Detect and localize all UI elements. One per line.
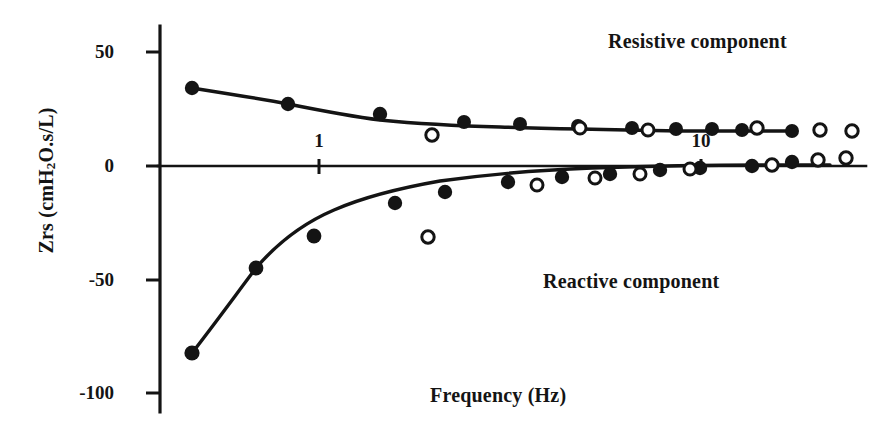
resistive-curve (192, 88, 792, 131)
data-point-open (684, 163, 696, 175)
data-point-filled (501, 175, 515, 189)
data-point-open (634, 168, 646, 180)
y-axis-label: Zrs (cmH2O.s/L) (35, 55, 60, 305)
data-point-open (766, 159, 778, 171)
data-point-filled (745, 159, 759, 173)
data-point-filled (388, 196, 402, 210)
data-point-open (426, 129, 438, 141)
data-point-filled (625, 121, 639, 135)
x-tick-label-1: 1 (299, 130, 339, 152)
chart-figure: 50 0 -50 -100 1 10 Zrs (cmH2O.s/L) Frequ… (0, 0, 880, 436)
data-point-open (574, 122, 586, 134)
chart-canvas (0, 0, 880, 436)
data-point-filled (457, 115, 471, 129)
data-point-open (846, 125, 858, 137)
reactive-filled-markers (184, 155, 799, 361)
y-axis-label-head: Zrs (cmH (35, 169, 57, 253)
data-point-filled (438, 185, 452, 199)
data-point-open (751, 122, 763, 134)
x-tick-label-10: 10 (676, 130, 726, 152)
data-point-filled (281, 97, 295, 111)
data-point-open (814, 124, 826, 136)
data-point-filled (373, 107, 387, 121)
data-point-filled (555, 170, 569, 184)
data-point-filled (735, 123, 749, 137)
data-point-filled (249, 261, 264, 276)
data-point-open (840, 152, 852, 164)
x-axis-label: Frequency (Hz) (430, 384, 566, 407)
reactive-curve (192, 165, 830, 353)
data-point-filled (785, 124, 799, 138)
data-point-filled (513, 117, 527, 131)
data-point-filled (653, 163, 667, 177)
data-point-filled (603, 167, 617, 181)
axis-lines (158, 26, 866, 412)
y-tick-label-neg100: -100 (24, 382, 114, 404)
data-point-open (812, 154, 824, 166)
data-point-open (531, 179, 543, 191)
resistive-component-label: Resistive component (608, 30, 787, 53)
data-point-filled (184, 345, 199, 360)
reactive-component-label: Reactive component (543, 270, 719, 293)
y-axis-label-subscript: 2 (43, 162, 58, 169)
y-axis-label-tail: O.s/L) (35, 107, 57, 162)
data-point-filled (307, 229, 322, 244)
data-point-open (642, 124, 654, 136)
data-point-filled (785, 155, 799, 169)
data-point-open (422, 231, 434, 243)
data-point-open (589, 172, 601, 184)
data-point-filled (185, 81, 199, 95)
